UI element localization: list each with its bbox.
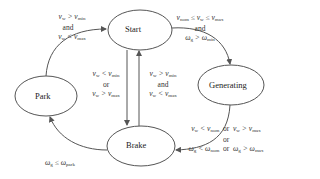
state-label-start: Start bbox=[125, 24, 141, 34]
state-label-brake: Brake bbox=[126, 140, 146, 150]
condition-brake-to-park: ωg ≤ ωpark bbox=[38, 158, 82, 169]
condition-start-to-generating: vnom ≤ vw ≤ vmax and ωg > ωmin bbox=[168, 13, 232, 44]
condition-start-to-brake: vw < vmin or vw > vmax bbox=[88, 69, 124, 100]
condition-generating-to-brake: vw < vnom or vw > vmax or ωg < ωnom or ω… bbox=[172, 124, 280, 155]
state-label-generating: Generating bbox=[209, 80, 247, 90]
condition-brake-to-start: vw > vmin and vw < vmax bbox=[145, 69, 181, 100]
state-label-park: Park bbox=[35, 91, 51, 101]
arrow-brake-to-park bbox=[50, 117, 107, 150]
condition-park-to-start: vw > vmin and vw < vmax bbox=[52, 12, 92, 43]
